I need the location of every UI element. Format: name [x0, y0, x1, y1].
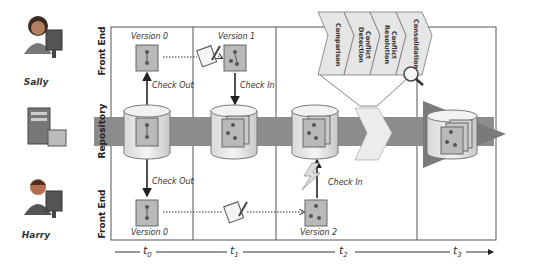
tick-t3: t3 [453, 244, 462, 259]
stage-conflict-resolution: Conflict Resolution [381, 20, 397, 70]
lane-label-bottom-front-end: Front End [97, 184, 107, 244]
actor-name-sally: Sally [6, 77, 66, 87]
edit-notepad-icon-sally [197, 46, 220, 67]
actor-name-harry: Harry [6, 230, 66, 240]
doc-repo-t2 [303, 116, 330, 147]
doc-sally-v0 [136, 45, 158, 71]
action-label-harry-checkout: Check Out [152, 177, 194, 186]
tick-t0: t0 [143, 244, 152, 259]
server-icon [28, 108, 66, 146]
tick-t2: t2 [339, 244, 348, 259]
stage-comparison: Comparison [334, 20, 341, 70]
doc-harry-v0 [136, 200, 158, 226]
diagram-canvas [0, 0, 534, 273]
doc-repo-t3 [441, 120, 472, 154]
version-label-sally-v1: Version 1 [218, 32, 255, 41]
tick-t1: t1 [230, 244, 239, 259]
harry-avatar [24, 179, 62, 218]
version-label-sally-v0: Version 0 [131, 32, 168, 41]
lane-label-repository: Repository [97, 101, 107, 161]
version-label-harry-v2: Version 2 [300, 228, 337, 237]
doc-sally-v1 [224, 45, 246, 71]
action-label-sally-checkin: Check In [240, 81, 275, 90]
doc-harry-v2 [305, 200, 327, 226]
sally-avatar [24, 16, 62, 58]
lane-label-top-front-end: Front End [97, 21, 107, 81]
stage-conflict-detection: Conflict Detection [355, 20, 371, 70]
action-label-harry-checkin: Check In [328, 178, 363, 187]
version-label-harry-v0: Version 0 [131, 228, 168, 237]
edit-notepad-icon-harry [224, 202, 247, 223]
merge-funnel [320, 75, 410, 106]
action-label-sally-checkout: Check Out [152, 81, 194, 90]
stage-consolidation: Consolidation [412, 18, 419, 70]
doc-repo-t1 [222, 116, 249, 147]
doc-repo-t0 [136, 118, 158, 146]
